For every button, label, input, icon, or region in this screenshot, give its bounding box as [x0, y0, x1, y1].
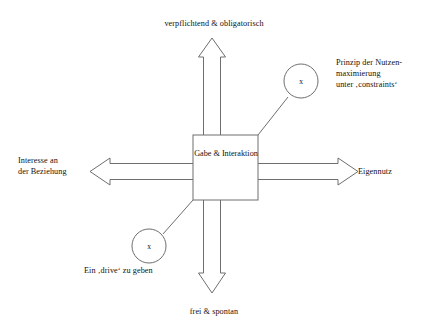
connector-lower-left: [163, 200, 193, 234]
axis-label-left: Interesse an der Beziehung: [18, 155, 114, 177]
diagram-canvas: x x verpflichtend & obligatorisch frei &…: [0, 0, 428, 330]
axis-label-top: verpflichtend & obligatorisch: [0, 18, 428, 29]
upper-right-node-annotation: Prinzip der Nutzen- maximierung unter ‚c…: [336, 57, 428, 90]
axis-label-right: Eigennutz: [358, 166, 428, 177]
arrow-down: [199, 200, 226, 293]
connector-upper-right: [258, 97, 288, 135]
lower-left-node-marker: x: [147, 242, 151, 251]
upper-right-node-marker: x: [299, 77, 303, 86]
lower-left-node-annotation: Ein ‚drive‘ zu geben: [84, 265, 204, 276]
center-box-label: Gabe & Interaktion: [193, 148, 259, 160]
center-box: [193, 135, 258, 200]
arrow-right: [258, 158, 358, 185]
axis-label-bottom: frei & spontan: [0, 306, 428, 317]
arrow-up: [199, 38, 226, 135]
